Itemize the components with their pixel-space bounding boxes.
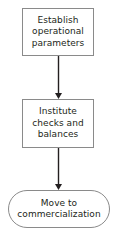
flow-node-establish-operational-parameters: Establish operational parameters	[22, 8, 94, 56]
flow-connector-1	[52, 56, 65, 99]
flow-node-label: Establish operational parameters	[30, 15, 87, 50]
flow-node-label: Institute checks and balances	[30, 106, 85, 141]
flow-node-institute-checks-and-balances: Institute checks and balances	[22, 99, 94, 148]
flow-connector-2	[52, 148, 65, 190]
flow-node-label: Move to commercialization	[15, 198, 102, 221]
flowchart-diagram: Establish operational parameters Institu…	[0, 0, 117, 236]
flow-node-move-to-commercialization: Move to commercialization	[8, 190, 110, 228]
